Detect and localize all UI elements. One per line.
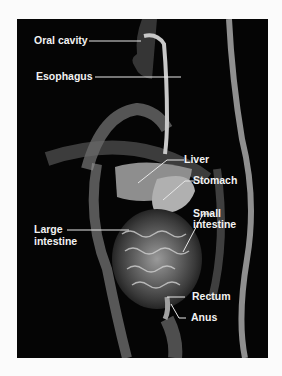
stomach-shape — [152, 176, 195, 214]
right-arm-silhouette — [229, 19, 251, 358]
diagram-panel: Oral cavity Esophagus Liver Stomach Smal… — [17, 19, 268, 358]
label-anus: Anus — [191, 312, 217, 324]
intestines-shape — [112, 209, 202, 309]
rectum-shape — [165, 297, 168, 319]
head-silhouette — [132, 19, 157, 79]
torso-right — [212, 169, 221, 299]
label-small-intestine-line2: intestine — [193, 219, 236, 231]
label-large-intestine-line2: intestine — [34, 236, 77, 248]
thigh-silhouette — [167, 319, 175, 358]
label-stomach: Stomach — [193, 175, 237, 187]
label-rectum: Rectum — [192, 291, 231, 303]
label-esophagus: Esophagus — [36, 71, 93, 83]
label-large-intestine-line1: Large — [34, 224, 63, 236]
label-oral-cavity: Oral cavity — [34, 35, 88, 47]
label-liver: Liver — [184, 154, 209, 166]
